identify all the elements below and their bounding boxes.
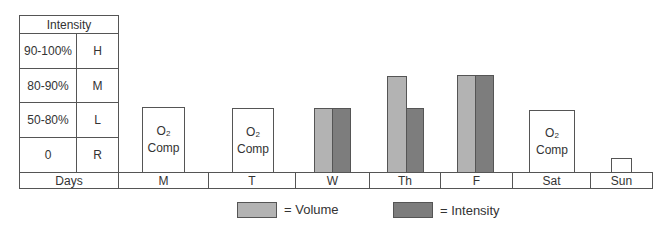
intensity-range-h: 90-100%	[19, 33, 77, 69]
days-label: Days	[55, 174, 82, 188]
intensity-header-label: Intensity	[47, 18, 92, 32]
intensity-bar-f	[475, 75, 494, 173]
day-label: Th	[398, 174, 412, 188]
o2-label: O2	[157, 124, 171, 141]
o2-label: O2	[246, 125, 260, 142]
intensity-code-h: H	[76, 33, 119, 69]
day-label: F	[473, 174, 480, 188]
range-label: 80-90%	[27, 79, 68, 93]
day-label: Sun	[611, 174, 632, 188]
o2-comp-box-t: O2 Comp	[232, 108, 274, 173]
legend-intensity-swatch	[393, 202, 433, 218]
range-label: 0	[45, 148, 52, 162]
comp-label: Comp	[147, 141, 179, 156]
intensity-header: Intensity	[19, 15, 119, 34]
day-cell-m: M	[118, 172, 209, 189]
day-label: M	[159, 174, 169, 188]
day-cell-w: W	[295, 172, 370, 189]
o2-comp-box-m: O2 Comp	[142, 107, 185, 173]
volume-bar-f	[457, 75, 476, 173]
days-label-cell: Days	[19, 172, 119, 189]
day-cell-sat: Sat	[512, 172, 591, 189]
intensity-code-l: L	[76, 102, 119, 138]
day-label: Sat	[542, 174, 560, 188]
intensity-range-m: 80-90%	[19, 68, 77, 103]
intensity-bar-th	[406, 108, 424, 173]
day-cell-sun: Sun	[590, 172, 653, 189]
intensity-code-m: M	[76, 68, 119, 103]
volume-bar-th	[387, 76, 407, 173]
volume-bar-w	[314, 108, 333, 173]
range-label: 90-100%	[24, 44, 72, 58]
code-label: M	[93, 79, 103, 93]
code-label: H	[93, 44, 102, 58]
legend-intensity-label: = Intensity	[440, 203, 500, 218]
day-cell-f: F	[440, 172, 513, 189]
rest-box-sun	[611, 158, 632, 173]
comp-label: Comp	[536, 143, 568, 158]
intensity-bar-w	[332, 108, 351, 173]
day-cell-t: T	[208, 172, 296, 189]
day-label: W	[327, 174, 338, 188]
code-label: R	[93, 148, 102, 162]
comp-label: Comp	[237, 142, 269, 157]
code-label: L	[94, 113, 101, 127]
intensity-code-r: R	[76, 137, 119, 173]
day-cell-th: Th	[369, 172, 441, 189]
o2-comp-box-sat: O2 Comp	[529, 110, 575, 173]
range-label: 50-80%	[27, 113, 68, 127]
intensity-range-l: 50-80%	[19, 102, 77, 138]
o2-label: O2	[545, 126, 559, 143]
day-label: T	[248, 174, 255, 188]
legend-volume-swatch	[237, 202, 277, 218]
legend-volume-label: = Volume	[284, 202, 339, 217]
intensity-range-r: 0	[19, 137, 77, 173]
